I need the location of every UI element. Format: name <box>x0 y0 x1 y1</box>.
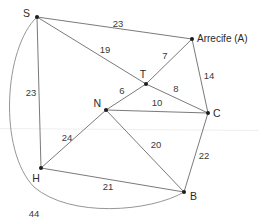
edge-a-t <box>146 39 192 84</box>
edge-weight-t-c: 8 <box>173 83 178 94</box>
edge-n-c <box>106 110 208 113</box>
node-label-n: N <box>93 97 101 109</box>
edge-n-b <box>106 110 184 192</box>
faint-horizontal-guide-line <box>0 129 259 131</box>
edge-weight-c-b: 22 <box>199 150 210 161</box>
node-label-c: C <box>213 107 221 119</box>
edge-weight-s-h: 23 <box>26 87 37 98</box>
node-label-t: T <box>140 68 147 80</box>
edge-weight-s-t: 19 <box>100 44 111 55</box>
node-dot-s[interactable] <box>35 15 39 19</box>
node-dot-b[interactable] <box>182 190 186 194</box>
edge-weight-a-c: 14 <box>204 70 215 81</box>
node-label-b: B <box>190 190 197 202</box>
node-dot-n[interactable] <box>104 108 108 112</box>
edge-weight-n-h: 24 <box>62 132 73 143</box>
edge-weight-s-b: 44 <box>29 208 40 219</box>
node-label-arrecife: Arrecife (A) <box>197 33 248 44</box>
edge-s-t <box>37 17 146 84</box>
node-label-s: S <box>23 7 30 19</box>
edge-t-n <box>106 84 146 110</box>
node-label-group: S Arrecife (A) T C N H B <box>23 7 248 202</box>
edge-n-h <box>41 110 106 168</box>
node-dot-h[interactable] <box>39 166 43 170</box>
edge-weight-h-b: 21 <box>103 181 114 192</box>
node-label-h: H <box>32 172 40 184</box>
edge-weight-s-a: 23 <box>113 18 124 29</box>
node-dot-group <box>35 15 210 194</box>
edge-weight-n-c: 10 <box>152 97 163 108</box>
edge-s-h <box>37 17 41 168</box>
edge-weight-n-b: 20 <box>151 139 162 150</box>
edge-weight-a-t: 7 <box>162 50 167 61</box>
weighted-graph-diagram: S Arrecife (A) T C N H B 23 19 23 7 14 8… <box>0 0 259 224</box>
node-dot-a[interactable] <box>190 37 194 41</box>
node-dot-c[interactable] <box>206 111 210 115</box>
node-dot-t[interactable] <box>144 82 148 86</box>
edge-weight-group: 23 19 23 7 14 8 6 10 24 20 22 21 44 <box>26 18 215 219</box>
edge-weight-t-n: 6 <box>119 85 124 96</box>
graph-canvas: S Arrecife (A) T C N H B 23 19 23 7 14 8… <box>0 0 259 224</box>
